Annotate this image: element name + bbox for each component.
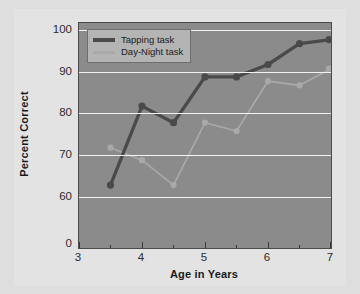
x-axis-title: Age in Years [78, 268, 330, 280]
gridline-60 [79, 197, 331, 198]
y-tick-zero-break: 0 [32, 238, 72, 250]
x-tick-3: 3 [63, 252, 93, 264]
x-tick-mark-5-5 [236, 245, 237, 248]
y-tick-70: 70 [32, 149, 72, 161]
x-axis-tick-labels: 3 4 5 6 7 [78, 252, 330, 268]
x-tick-mark-3 [79, 242, 80, 248]
x-tick-6: 6 [252, 252, 282, 264]
x-tick-mark-3-5 [110, 245, 111, 248]
y-tick-60: 60 [32, 191, 72, 203]
plot-area: Tapping task Day-Night task [78, 22, 332, 249]
x-tick-5: 5 [189, 252, 219, 264]
chart-legend: Tapping task Day-Night task [87, 29, 191, 63]
legend-item-day-night-task: Day-Night task [93, 46, 183, 58]
y-tick-100: 100 [32, 24, 72, 36]
gridline-90 [79, 72, 331, 73]
x-tick-4: 4 [126, 252, 156, 264]
legend-swatch-tapping-task [93, 38, 115, 42]
x-tick-mark-4-5 [173, 245, 174, 248]
legend-item-tapping-task: Tapping task [93, 34, 183, 46]
x-tick-mark-6-5 [299, 245, 300, 248]
x-tick-mark-6 [268, 242, 269, 248]
legend-label-tapping-task: Tapping task [121, 35, 174, 45]
gridline-70 [79, 155, 331, 156]
x-tick-7: 7 [315, 252, 345, 264]
legend-label-day-night-task: Day-Night task [121, 47, 183, 57]
chart-figure: 100 90 80 70 60 0 Percent Correct [0, 0, 360, 294]
y-tick-90: 90 [32, 66, 72, 78]
y-axis-tick-labels: 100 90 80 70 60 0 [26, 0, 72, 294]
y-axis-title: Percent Correct [18, 79, 30, 189]
x-tick-mark-7 [330, 242, 331, 248]
y-tick-80: 80 [32, 107, 72, 119]
x-tick-mark-4 [142, 242, 143, 248]
x-tick-mark-5 [205, 242, 206, 248]
gridline-80 [79, 113, 331, 114]
legend-swatch-day-night-task [93, 51, 115, 54]
